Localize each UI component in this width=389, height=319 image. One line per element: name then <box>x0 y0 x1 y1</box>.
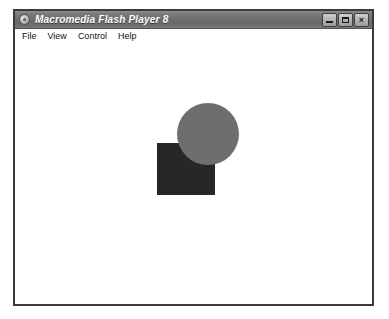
menu-item-file[interactable]: File <box>20 30 43 43</box>
close-icon: × <box>355 14 368 26</box>
menu-item-view[interactable]: View <box>46 30 73 43</box>
window-controls: × <box>322 13 369 27</box>
maximize-icon <box>342 17 349 23</box>
minimize-icon <box>326 21 333 23</box>
stage-shape-circle <box>177 103 239 165</box>
menu-item-control[interactable]: Control <box>76 30 113 43</box>
flash-player-icon <box>19 14 30 25</box>
menu-bar: File View Control Help <box>15 29 372 45</box>
flash-player-window: Macromedia Flash Player 8 × File View Co… <box>13 9 374 306</box>
window-title: Macromedia Flash Player 8 <box>35 14 322 25</box>
title-bar[interactable]: Macromedia Flash Player 8 × <box>15 11 372 29</box>
menu-item-help[interactable]: Help <box>116 30 143 43</box>
minimize-button[interactable] <box>322 13 337 27</box>
maximize-button[interactable] <box>338 13 353 27</box>
flash-stage[interactable] <box>15 45 372 304</box>
close-button[interactable]: × <box>354 13 369 27</box>
